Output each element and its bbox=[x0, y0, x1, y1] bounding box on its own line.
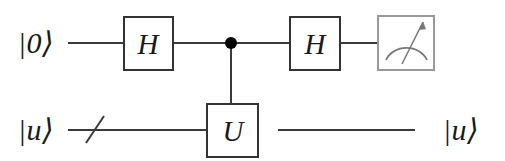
measurement-gate-box[interactable] bbox=[378, 16, 434, 70]
control-dot-icon bbox=[225, 37, 237, 49]
bottom-wire-output-label: |u⟩ bbox=[443, 115, 479, 145]
bottom-wire-input-label: |u⟩ bbox=[18, 115, 54, 145]
quantum-circuit-diagram: |0⟩ |u⟩ |u⟩ H H U bbox=[0, 0, 505, 161]
hadamard-gate-2-label: H bbox=[305, 30, 326, 59]
circuit-svg-canvas bbox=[0, 0, 505, 161]
hadamard-gate-1-label: H bbox=[138, 30, 159, 59]
u-gate-label: U bbox=[223, 117, 244, 146]
control-connection-group bbox=[225, 37, 237, 105]
top-wire-input-label: |0⟩ bbox=[18, 28, 54, 58]
measurement-gate-group[interactable] bbox=[378, 16, 434, 70]
